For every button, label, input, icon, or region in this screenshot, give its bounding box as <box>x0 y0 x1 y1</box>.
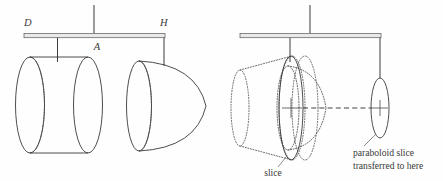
paraboloid-ghost-upper <box>288 66 326 108</box>
caption-slice: slice <box>264 167 282 178</box>
paraboloid-solid <box>127 61 207 151</box>
slice-shape <box>279 56 303 160</box>
cone-ghost-left-face <box>231 70 249 146</box>
paraboloid-upper-profile <box>139 61 206 106</box>
caption-transferred-line2: transferred to here <box>353 160 423 171</box>
transferred-slice-shape <box>371 78 389 138</box>
cylinder-solid <box>16 57 103 153</box>
figure-root: D A H slice paraboloid slice transferred… <box>0 0 443 181</box>
paraboloid-lower-profile <box>139 106 206 151</box>
transferred-leader-line <box>364 134 376 146</box>
paraboloid-hidden-rim <box>139 61 152 151</box>
right-balance-beam <box>240 34 381 38</box>
right-diagram <box>231 5 389 167</box>
cone-ghost-top-edge <box>240 56 292 70</box>
caption-transferred-line1: paraboloid slice <box>353 147 414 158</box>
figure-canvas: D A H slice paraboloid slice transferred… <box>0 0 443 181</box>
label-A: A <box>93 41 101 52</box>
cylinder-right-face <box>74 57 103 153</box>
slice-leader-line <box>278 157 286 167</box>
left-balance-beam <box>24 34 165 38</box>
label-H: H <box>159 17 169 28</box>
cylinder-hidden-rim <box>30 57 45 153</box>
label-D: D <box>23 17 32 28</box>
left-diagram <box>16 5 207 153</box>
